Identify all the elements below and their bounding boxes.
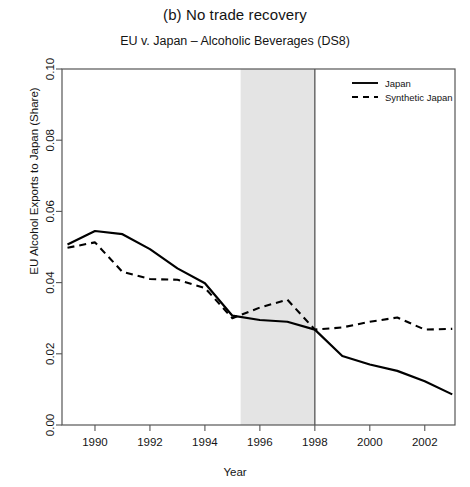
x-tick-label: 2002 — [412, 436, 438, 448]
y-tick-label: 0.00 — [44, 414, 56, 436]
x-tick-label: 2000 — [357, 436, 383, 448]
y-tick-label: 0.06 — [44, 200, 56, 222]
x-tick-label: 1990 — [82, 436, 108, 448]
x-tick-label: 1996 — [247, 436, 273, 448]
legend-label-synthetic-japan: Synthetic Japan — [385, 92, 453, 103]
chart-figure: (b) No trade recovery EU v. Japan – Alco… — [0, 0, 470, 487]
x-tick-label: 1998 — [302, 436, 328, 448]
legend-label-japan: Japan — [385, 78, 411, 89]
plot-canvas: 0.000.020.040.060.080.101990199219941996… — [0, 0, 470, 487]
y-tick-label: 0.02 — [44, 343, 56, 365]
y-tick-label: 0.04 — [44, 271, 56, 294]
y-tick-label: 0.08 — [44, 129, 56, 151]
y-tick-label: 0.10 — [44, 58, 56, 80]
x-tick-label: 1992 — [137, 436, 163, 448]
shaded-band-dispute-period — [241, 69, 315, 425]
x-tick-label: 1994 — [192, 436, 218, 448]
chart-legend: JapanSynthetic Japan — [352, 78, 453, 103]
